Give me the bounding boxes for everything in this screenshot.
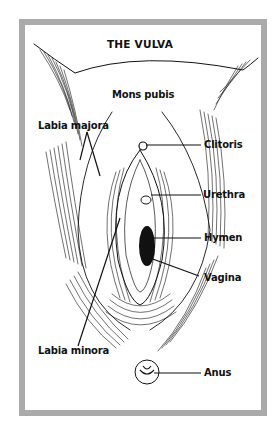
label-clitoris: Clitoris (204, 139, 243, 150)
label-labia-minora: Labia minora (38, 345, 109, 356)
anus-shape (135, 360, 159, 384)
urethra-shape (141, 196, 151, 204)
labia-minora-outline (116, 150, 165, 305)
leader-labia-majora-2 (80, 132, 87, 160)
label-urethra: Urethra (203, 189, 245, 200)
vaginal-opening (139, 226, 155, 266)
label-anus: Anus (204, 367, 231, 378)
label-labia-majora: Labia majora (38, 120, 109, 131)
leader-vagina (150, 258, 199, 276)
label-vagina: Vagina (204, 272, 241, 283)
label-hymen: Hymen (204, 232, 242, 243)
clitoris-shape (139, 142, 147, 150)
leader-labia-minora (78, 218, 120, 346)
vulva-illustration (0, 0, 280, 436)
diagram-title: THE VULVA (107, 38, 173, 50)
label-mons-pubis: Mons pubis (112, 89, 174, 100)
leader-labia-majora-1 (87, 132, 100, 176)
